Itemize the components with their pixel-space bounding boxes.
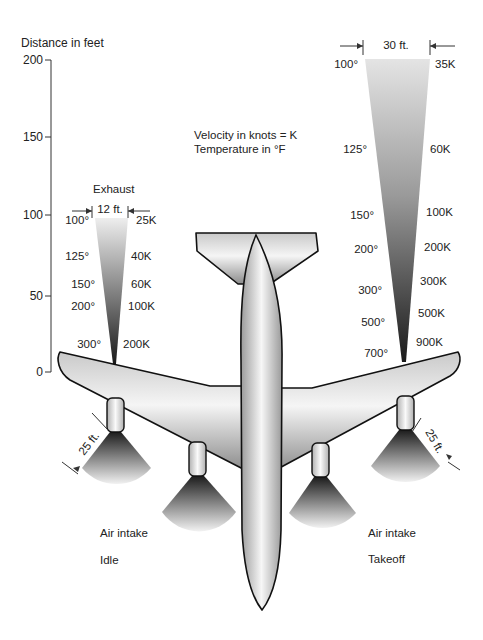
intake-right-label: Air intake — [368, 527, 416, 539]
takeoff-velocity-1: 60K — [430, 143, 451, 155]
axis-tick-150: 150 — [23, 130, 43, 144]
idle-label: Idle — [100, 554, 119, 566]
takeoff-exhaust-plume: 30 ft. 100° 125° 150° 200° 300° 500° 700… — [334, 39, 456, 362]
takeoff-velocity-5: 500K — [418, 307, 445, 319]
legend: Velocity in knots = K Temperature in °F — [194, 129, 298, 155]
idle-velocity-0: 25K — [136, 214, 157, 226]
idle-temp-4: 300° — [77, 338, 101, 350]
takeoff-velocity-2: 100K — [426, 206, 453, 218]
takeoff-velocity-6: 900K — [416, 336, 443, 348]
takeoff-velocity-4: 300K — [420, 275, 447, 287]
legend-velocity: Velocity in knots = K — [194, 129, 298, 141]
axis-tick-100: 100 — [23, 208, 43, 222]
idle-width-label: 12 ft. — [97, 203, 123, 215]
exhaust-title: Exhaust — [93, 183, 135, 195]
takeoff-velocity-3: 200K — [424, 241, 451, 253]
idle-temp-0: 100° — [65, 214, 89, 226]
axis-tick-50: 50 — [30, 289, 44, 303]
axis-title: Distance in feet — [21, 36, 104, 50]
fuselage — [241, 235, 282, 610]
legend-temperature: Temperature in °F — [194, 143, 286, 155]
takeoff-temp-2: 150° — [350, 209, 374, 221]
takeoff-width-label: 30 ft. — [383, 39, 409, 51]
axis-tick-200: 200 — [23, 53, 43, 67]
idle-velocity-3: 100K — [128, 300, 155, 312]
jet-blast-diagram: Distance in feet 200 150 100 50 0 Veloci… — [0, 0, 483, 640]
intake-left-label: Air intake — [100, 527, 148, 539]
right-wing — [272, 352, 460, 472]
idle-temp-2: 150° — [71, 278, 95, 290]
takeoff-label: Takeoff — [368, 553, 406, 565]
takeoff-temp-6: 700° — [364, 347, 388, 359]
idle-temp-3: 200° — [71, 300, 95, 312]
idle-velocity-1: 40K — [131, 250, 152, 262]
takeoff-temp-1: 125° — [343, 143, 367, 155]
axis-tick-0: 0 — [36, 365, 43, 379]
takeoff-temp-5: 500° — [361, 316, 385, 328]
takeoff-temp-4: 300° — [358, 284, 382, 296]
idle-exhaust-plume: Exhaust 12 ft. 100° 125° 150° 200° 300° … — [65, 183, 157, 364]
idle-velocity-4: 200K — [123, 338, 150, 350]
takeoff-temp-3: 200° — [354, 243, 378, 255]
takeoff-velocity-0: 35K — [435, 58, 456, 70]
idle-temp-1: 125° — [65, 250, 89, 262]
idle-velocity-2: 60K — [131, 278, 152, 290]
takeoff-temp-0: 100° — [334, 58, 358, 70]
